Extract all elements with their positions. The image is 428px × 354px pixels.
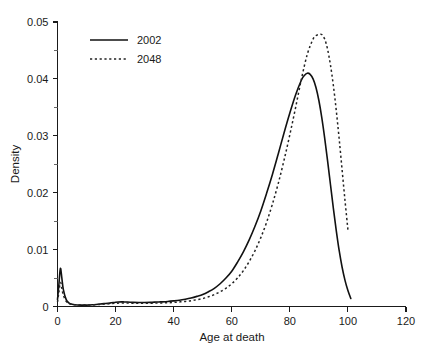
- density-chart-figure: 00.010.020.030.040.05 020406080100120 Ag…: [0, 0, 428, 354]
- x-tick-label: 0: [54, 315, 60, 327]
- x-tick-label: 20: [109, 315, 121, 327]
- x-axis-ticks: [58, 307, 407, 312]
- y-tick-label: 0: [42, 301, 48, 313]
- y-axis-tick-labels: 00.010.020.030.040.05: [27, 16, 48, 313]
- y-tick-label: 0.01: [27, 244, 48, 256]
- x-tick-label: 80: [284, 315, 296, 327]
- legend-label-2002: 2002: [137, 34, 161, 46]
- x-tick-label: 100: [339, 315, 357, 327]
- y-tick-label: 0.02: [27, 187, 48, 199]
- x-axis-title: Age at death: [199, 331, 264, 343]
- y-axis-title: Density: [9, 145, 21, 184]
- density-curve-2002: [58, 73, 351, 305]
- legend-label-2048: 2048: [137, 53, 161, 65]
- y-tick-label: 0.03: [27, 130, 48, 142]
- y-tick-label: 0.05: [27, 16, 48, 28]
- chart-legend: 2002 2048: [90, 34, 161, 65]
- x-tick-label: 120: [397, 315, 415, 327]
- x-tick-label: 60: [226, 315, 238, 327]
- y-tick-label: 0.04: [27, 73, 48, 85]
- chart-canvas: 00.010.020.030.040.05 020406080100120 Ag…: [0, 0, 428, 354]
- x-tick-label: 40: [168, 315, 180, 327]
- x-axis-tick-labels: 020406080100120: [54, 315, 415, 327]
